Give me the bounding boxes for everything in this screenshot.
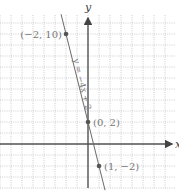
data-point [97,164,102,169]
data-point-label: (1, −2) [104,161,139,172]
graph: x y y = −4x + 2 (−2, 10)(0, 2)(1, −2) [0,0,179,192]
series-label: y = −4x + 2 [71,57,94,111]
y-axis-label: y [84,1,92,14]
x-axis-label: x [175,138,179,151]
data-point [64,32,69,37]
data-point-label: (0, 2) [93,117,120,128]
data-point-label: (−2, 10) [20,29,62,40]
data-point [86,120,91,125]
